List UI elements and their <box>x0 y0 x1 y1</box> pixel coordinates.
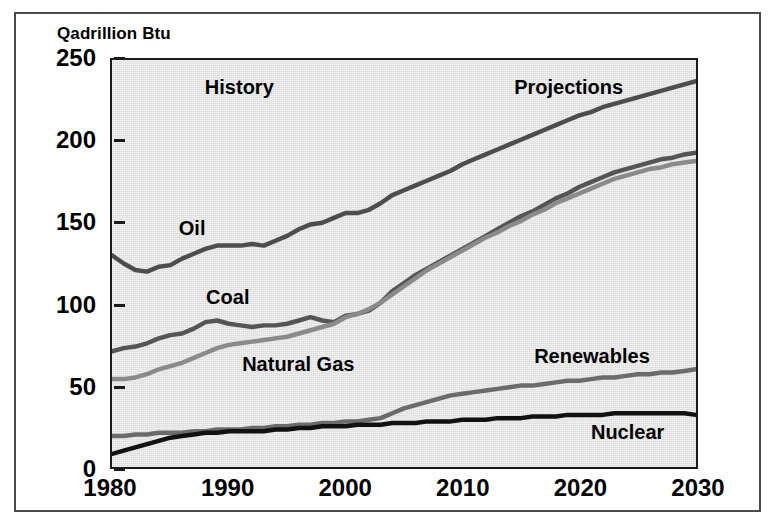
y-tick-mark-0 <box>114 468 125 471</box>
y-tick-label-200: 200 <box>24 128 96 152</box>
y-tick-mark-200 <box>114 139 125 142</box>
x-tick-label-1990: 1990 <box>183 476 273 500</box>
x-tick-label-2010: 2010 <box>418 476 508 500</box>
energy-consumption-chart-figure: Qadrillion Btu 050100150200250 198019902… <box>0 0 775 525</box>
y-tick-mark-100 <box>114 304 125 307</box>
annotation-renewables: Renewables <box>534 346 650 366</box>
annotation-oil: Oil <box>179 218 206 238</box>
y-tick-label-100: 100 <box>24 293 96 317</box>
annotation-coal: Coal <box>206 287 249 307</box>
x-tick-label-2020: 2020 <box>535 476 625 500</box>
annotation-nuclear: Nuclear <box>591 422 664 442</box>
plot-area <box>110 58 698 469</box>
x-tick-label-2030: 2030 <box>653 476 743 500</box>
y-tick-label-50: 50 <box>24 375 96 399</box>
y-tick-mark-50 <box>114 386 125 389</box>
series-lines-svg <box>112 60 696 467</box>
y-tick-label-250: 250 <box>24 46 96 70</box>
annotation-projections: Projections <box>514 77 623 97</box>
y-tick-mark-150 <box>114 221 125 224</box>
y-axis-tick-labels: 050100150200250 <box>16 0 96 525</box>
x-tick-label-2000: 2000 <box>300 476 390 500</box>
y-tick-label-150: 150 <box>24 210 96 234</box>
annotation-history: History <box>205 77 274 97</box>
x-tick-label-1980: 1980 <box>65 476 155 500</box>
annotation-natural-gas: Natural Gas <box>242 354 354 374</box>
y-tick-mark-250 <box>114 57 125 60</box>
